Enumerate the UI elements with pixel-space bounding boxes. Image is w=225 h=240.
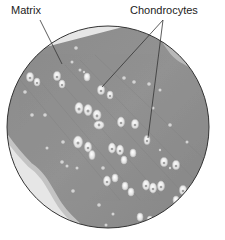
cartilage-diagram [0, 0, 225, 240]
chondrocytes-label: Chondrocytes [130, 4, 198, 16]
magnified-view [0, 0, 225, 240]
matrix-region [0, 20, 215, 240]
matrix-label: Matrix [11, 4, 41, 16]
